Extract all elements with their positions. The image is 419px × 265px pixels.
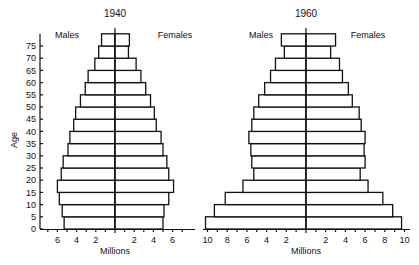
bar-males-15-19 — [57, 180, 115, 192]
x-tick-label: 4 — [343, 235, 348, 245]
x-tick-label: 6 — [244, 235, 249, 245]
bar-males-50-54 — [80, 95, 115, 107]
bar-males-35-39 — [249, 131, 306, 143]
bar-males-45-49 — [76, 107, 115, 119]
bar-females-25-29 — [306, 156, 365, 168]
y-tick-label: 75 — [26, 41, 36, 51]
bar-females-0-4 — [115, 217, 163, 229]
bar-females-35-39 — [306, 131, 365, 143]
bar-males-30-34 — [68, 144, 115, 156]
bar-females-0-4 — [306, 217, 402, 229]
x-tick-label: 6 — [170, 235, 175, 245]
males-label: Males — [55, 30, 80, 40]
bar-males-40-44 — [74, 119, 115, 131]
y-tick-label: 70 — [26, 53, 36, 63]
x-tick-label: 8 — [382, 235, 387, 245]
bar-females-75+ — [115, 34, 129, 46]
y-tick-label: 65 — [26, 66, 36, 76]
bar-males-20-24 — [254, 168, 306, 180]
x-tick-label: 6 — [363, 235, 368, 245]
bar-males-50-54 — [259, 95, 306, 107]
bar-females-65-69 — [306, 58, 339, 70]
x-tick-label: 10 — [202, 235, 212, 245]
bar-females-10-14 — [306, 192, 383, 204]
bar-females-60-64 — [306, 70, 342, 82]
x-tick-label: 4 — [74, 235, 79, 245]
bar-females-35-39 — [115, 131, 161, 143]
bar-males-10-14 — [225, 192, 306, 204]
bar-males-40-44 — [252, 119, 306, 131]
males-label: Males — [249, 30, 274, 40]
bar-males-65-69 — [95, 58, 115, 70]
chart-title: 1960 — [295, 8, 318, 19]
x-tick-label: 4 — [151, 235, 156, 245]
bar-males-0-4 — [206, 217, 306, 229]
bar-females-65-69 — [115, 58, 136, 70]
bar-males-55-59 — [85, 83, 115, 95]
bar-males-15-19 — [243, 180, 306, 192]
bar-males-35-39 — [70, 131, 115, 143]
x-axis-label: Millions — [100, 246, 131, 256]
bar-males-25-29 — [252, 156, 306, 168]
y-tick-label: 60 — [26, 78, 36, 88]
bar-females-50-54 — [306, 95, 352, 107]
x-tick-label: 8 — [225, 235, 230, 245]
bar-males-20-24 — [61, 168, 115, 180]
females-label: Females — [158, 30, 193, 40]
y-tick-label: 0 — [31, 224, 36, 234]
bar-males-60-64 — [88, 70, 115, 82]
bar-females-5-9 — [306, 205, 393, 217]
bar-females-55-59 — [306, 83, 348, 95]
x-tick-label: 4 — [264, 235, 269, 245]
x-axis-label: Millions — [291, 246, 322, 256]
y-tick-label: 50 — [26, 102, 36, 112]
bar-females-55-59 — [115, 83, 146, 95]
pyramid-1960: 108642246810Millions1960MalesFemales — [202, 8, 410, 256]
bar-males-55-59 — [265, 83, 306, 95]
chart-title: 1940 — [104, 8, 127, 19]
bar-males-10-14 — [59, 192, 115, 204]
x-tick-label: 6 — [55, 235, 60, 245]
bar-females-20-24 — [306, 168, 360, 180]
y-tick-label: 10 — [26, 200, 36, 210]
y-tick-label: 35 — [26, 139, 36, 149]
bar-females-50-54 — [115, 95, 151, 107]
bar-females-15-19 — [306, 180, 368, 192]
y-axis-ticks: 051015202530354045505560657075 — [26, 34, 43, 234]
bar-females-70-74 — [306, 46, 331, 58]
bar-males-75+ — [281, 34, 306, 46]
females-label: Females — [351, 30, 386, 40]
bar-males-75+ — [102, 34, 115, 46]
x-tick-label: 2 — [93, 235, 98, 245]
bar-females-75+ — [306, 34, 336, 46]
y-tick-label: 30 — [26, 151, 36, 161]
x-tick-label: 2 — [284, 235, 289, 245]
y-tick-label: 55 — [26, 90, 36, 100]
population-pyramids-chart: Age 051015202530354045505560657075 64224… — [0, 0, 419, 265]
x-tick-label: 10 — [399, 235, 409, 245]
bar-females-20-24 — [115, 168, 169, 180]
bar-females-10-14 — [115, 192, 169, 204]
bar-females-5-9 — [115, 205, 164, 217]
axes: Age — [9, 132, 19, 148]
x-tick-label: 2 — [132, 235, 137, 245]
y-tick-label: 45 — [26, 114, 36, 124]
y-tick-label: 40 — [26, 127, 36, 137]
y-axis-label: Age — [9, 132, 19, 148]
bar-males-0-4 — [64, 217, 115, 229]
bar-males-5-9 — [214, 205, 306, 217]
bar-males-5-9 — [62, 205, 115, 217]
y-tick-label: 20 — [26, 175, 36, 185]
bar-females-45-49 — [306, 107, 359, 119]
x-tick-label: 2 — [323, 235, 328, 245]
bar-females-40-44 — [115, 119, 156, 131]
bar-males-65-69 — [275, 58, 306, 70]
bar-males-70-74 — [284, 46, 306, 58]
y-tick-label: 5 — [31, 212, 36, 222]
bar-females-40-44 — [306, 119, 361, 131]
pyramid-1940: 642246Millions1940MalesFemales — [40, 8, 195, 256]
bar-males-45-49 — [254, 107, 306, 119]
bar-females-60-64 — [115, 70, 141, 82]
bar-females-70-74 — [115, 46, 128, 58]
bar-males-60-64 — [271, 70, 306, 82]
